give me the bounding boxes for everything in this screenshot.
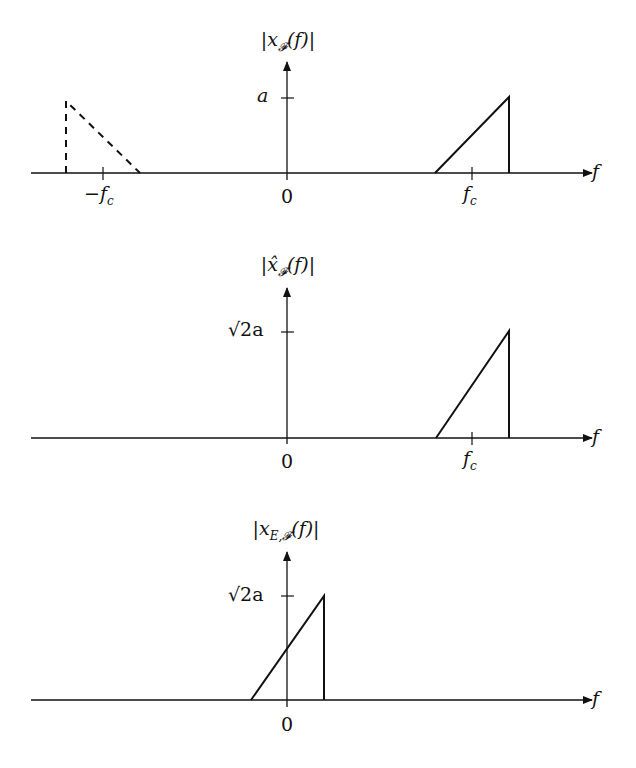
panel-2-title: |x̂𝓕(f)| — [261, 253, 315, 279]
x-tick-label-neg-fc: −fc — [84, 182, 114, 208]
x-tick-label-fc: fc — [463, 447, 477, 473]
x-tick-label-zero: 0 — [281, 185, 293, 207]
y-tick-label-sqrt2a: √2a — [228, 318, 264, 340]
spectrum-diagram — [0, 0, 636, 768]
title-sub: 𝓕 — [278, 40, 287, 54]
title-pre: |x̂ — [261, 253, 278, 275]
x-tick-label-zero: 0 — [281, 450, 293, 472]
negative-spectrum-dashed — [66, 101, 140, 173]
title-pre: |x — [253, 517, 270, 539]
x-tick-label-zero: 0 — [281, 713, 293, 735]
x-tick-label-fc: fc — [463, 182, 477, 208]
title-sub: E,𝓕 — [270, 529, 292, 543]
panel-3-title: |xE,𝓕(f)| — [253, 517, 320, 543]
title-sub: 𝓕 — [278, 265, 287, 279]
title-post: (f)| — [287, 28, 315, 50]
fc-sub: c — [470, 459, 477, 473]
y-tick-label-sqrt2a: √2a — [228, 583, 264, 605]
fc-main: f — [463, 447, 470, 469]
x-axis-label-f: f — [592, 160, 599, 182]
fc-sub: c — [470, 194, 477, 208]
x-axis-label-f: f — [592, 425, 599, 447]
fc-main: f — [463, 182, 470, 204]
title-pre: |x — [261, 28, 278, 50]
panel-3 — [31, 552, 592, 707]
neg-fc-main: −f — [84, 182, 107, 204]
x-axis-label-f: f — [592, 687, 599, 709]
panel-1-title: |x𝓕(f)| — [261, 28, 315, 54]
panel-1 — [31, 62, 592, 180]
y-tick-label-a: a — [257, 84, 268, 106]
neg-fc-sub: c — [107, 194, 114, 208]
analytic-spectrum — [436, 331, 509, 438]
title-post: (f)| — [287, 253, 315, 275]
title-post: (f)| — [291, 517, 319, 539]
positive-spectrum — [435, 97, 509, 173]
panel-2 — [31, 288, 592, 445]
